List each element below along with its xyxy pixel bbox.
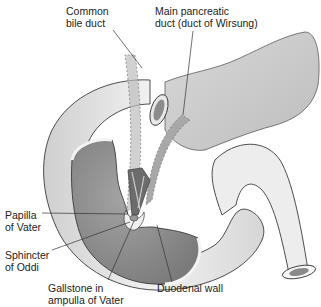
label-main-pancreatic-duct: Main pancreatic duct (duct of Wirsung) (155, 5, 258, 29)
anatomy-diagram: Common bile duct Main pancreatic duct (d… (0, 0, 321, 307)
gallstone (130, 215, 138, 221)
label-gallstone-in-ampulla: Gallstone in ampulla of Vater (48, 282, 124, 306)
label-common-bile-duct: Common bile duct (66, 5, 109, 29)
label-duodenal-wall: Duodenal wall (157, 282, 223, 294)
pancreas (165, 32, 319, 150)
label-sphincter-of-oddi: Sphincter of Oddi (5, 249, 49, 273)
label-papilla-of-vater: Papilla of Vater (5, 209, 41, 233)
